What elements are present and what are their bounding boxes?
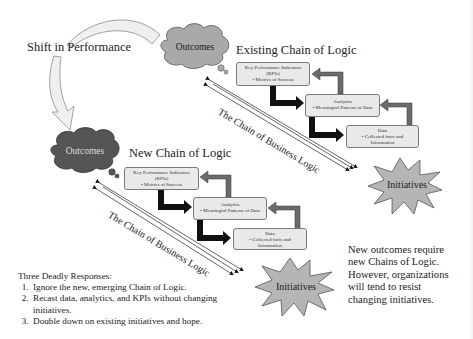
note-line: New outcomes require (348, 244, 473, 256)
deadly-responses: Three Deadly Responses: Ignore the new, … (18, 271, 238, 327)
data-box-new: Data • Collected facts and Information (233, 228, 307, 250)
shift-arrow-down (50, 56, 74, 130)
response-item: Ignore the new, emerging Chain of Logic. (31, 282, 238, 293)
existing-chain-title: Existing Chain of Logic (236, 43, 356, 58)
data-bullet-2: Information (234, 243, 306, 249)
note-line: new Chains of Logic. (348, 256, 473, 268)
analytics-box-new: Analytics • Meaningful Patterns of Data (193, 197, 267, 220)
data-bullet-2: Information (347, 140, 418, 146)
analytics-bullet: • Meaningful Patterns of Data (306, 105, 379, 111)
response-item: Recast data, analytics, and KPIs without… (31, 293, 238, 315)
note-line: However, organizations (348, 269, 473, 281)
kpi-bullet: • Metrics of Success (125, 182, 198, 188)
note-line: changing initiatives. (348, 294, 473, 306)
initiatives-label-existing: Initiatives (383, 179, 431, 190)
conclusion-note: New outcomes require new Chains of Logic… (348, 244, 473, 306)
analytics-bullet: • Meaningful Patterns of Data (194, 208, 266, 214)
shift-in-performance-label: Shift in Performance (27, 40, 131, 55)
page-edge-shadow (468, 0, 473, 339)
kpi-bullet: • Metrics of Success (237, 77, 309, 83)
initiatives-label-new: Initiatives (272, 281, 320, 292)
new-chain-title: New Chain of Logic (129, 146, 231, 161)
data-box-existing: Data • Collected facts and Information (346, 125, 419, 148)
outcomes-label-new: Outcomes (58, 146, 112, 156)
response-item: Double down on existing initiatives and … (31, 316, 238, 327)
chain-of-logic-lines-new (95, 182, 242, 274)
analytics-box-existing: Analytics • Meaningful Patterns of Data (305, 94, 380, 117)
note-line: will tend to resist (348, 281, 473, 293)
outcomes-label-existing: Outcomes (168, 42, 222, 52)
kpi-box-new: Key Performance Indicators (KPIs) • Metr… (124, 167, 199, 190)
kpi-box-existing: Key Performance Indicators (KPIs) • Metr… (236, 62, 310, 86)
deadly-responses-title: Three Deadly Responses: (18, 271, 238, 282)
